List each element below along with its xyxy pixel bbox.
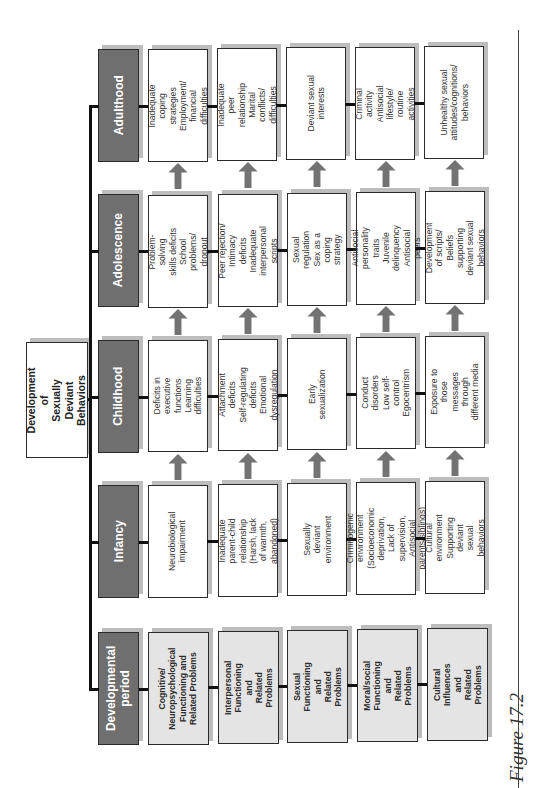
domain-sexual: Sexual Functioning and Related Problems: [287, 630, 348, 743]
root-node-box: Development of Sexually Deviant Behavior…: [26, 342, 88, 458]
cell-childhood-interpersonal: Attachment deficits Self-regulating defi…: [218, 339, 278, 451]
cell-text: Antisocial personality traits Juvenile d…: [350, 220, 422, 278]
arrow-up-icon: [444, 450, 466, 476]
domain-moral-social: Moral/social Functioning and Related Pro…: [357, 629, 418, 742]
arrow-up-icon: [167, 163, 189, 189]
cell-adulthood-cultural: Unhealthy sexual attitudes/cognitions/ b…: [424, 46, 484, 159]
cell-adolescence-sexual: Sexual regulation Sex as a coping strate…: [287, 193, 347, 306]
stage-header-adolescence: Adolescence: [98, 194, 139, 307]
stage-header-label: Adulthood: [111, 76, 125, 136]
arrow-up-icon: [375, 451, 397, 477]
stage-header-label: Developmental period: [104, 646, 133, 731]
root-node-label: Development of Sexually Deviant Behavior…: [26, 367, 89, 433]
cell-text: Sexually deviant environment: [302, 511, 333, 569]
arrow-up-icon: [306, 307, 328, 333]
arrow-up-icon: [444, 160, 466, 186]
domain-cognitive: Cognitive/ Neuropsychological Functionin…: [148, 632, 209, 745]
stage-header-infancy: Infancy: [98, 485, 139, 598]
domain-interpersonal: Interpersonal Functioning and Related Pr…: [218, 631, 279, 744]
cell-infancy-cognitive: Neurobiological impairment: [148, 485, 208, 598]
cell-infancy-sexual: Sexually deviant environment: [287, 483, 347, 596]
arrow-up-icon: [306, 161, 328, 187]
spine-tick: [89, 105, 99, 108]
stage-header-label: Childhood: [111, 367, 125, 426]
cell-text: Neurobiological impairment: [168, 512, 189, 571]
cell-childhood-moral-social: Conduct disorders Low self-control Egoce…: [356, 337, 416, 449]
cell-adulthood-cognitive: Inadequate coping strategies Employment/…: [148, 49, 208, 162]
arrow-up-icon: [375, 161, 397, 187]
spine-tick: [89, 688, 99, 691]
cell-text: Exposure to those messages through diffe…: [429, 363, 481, 421]
cell-infancy-cultural: Cultural environment Supporting deviant …: [425, 481, 485, 594]
cell-text: Cultural environment Supporting deviant …: [424, 509, 486, 567]
cell-infancy-moral-social: Criminogenic environment (Socioeconomic …: [356, 482, 416, 595]
stage-header-childhood: Childhood: [98, 340, 139, 453]
cell-text: Inadequate peer relationship Marital con…: [216, 76, 278, 134]
cell-text: Early sexualization: [307, 365, 328, 423]
stage-header-adulthood: Adulthood: [98, 49, 139, 162]
stage-header-developmental-period: Developmental period: [98, 632, 139, 745]
cell-text: Attachment deficits Self-regulating defi…: [217, 366, 279, 424]
cell-adolescence-interpersonal: Peer rejection/ Intimacy deficits Inadeq…: [218, 194, 278, 307]
domain-text: Moral/social Functioning and Related Pro…: [362, 656, 414, 715]
arrow-up-icon: [237, 308, 259, 334]
arrow-up-icon: [237, 162, 259, 188]
arrow-up-icon: [375, 306, 397, 332]
arrow-up-icon: [237, 453, 259, 479]
arrow-up-icon: [167, 309, 189, 335]
domain-text: Interpersonal Functioning and Related Pr…: [223, 658, 275, 717]
spine-tick: [89, 250, 99, 253]
domain-text: Sexual Functioning and Related Problems: [292, 657, 344, 716]
domain-text: Cognitive/ Neuropsychological Functionin…: [158, 647, 199, 729]
cell-text: Sexual regulation Sex as a coping strate…: [291, 221, 343, 279]
cell-text: Deviant sexual interests: [306, 75, 327, 131]
cell-adolescence-cultural: Development of scripts/ Beliefs supporti…: [425, 191, 485, 304]
cell-text: Inadequate parent-child relationship (Ha…: [217, 512, 279, 570]
domain-text: Cultural Influences and Related Problems: [432, 655, 484, 714]
cell-text: Unhealthy sexual attitudes/cognitions/ b…: [439, 65, 470, 141]
arrow-up-icon: [444, 305, 466, 331]
cell-adolescence-moral-social: Antisocial personality traits Juvenile d…: [356, 192, 416, 305]
cell-text: Criminal activity Antisocial lifestyle/ …: [354, 75, 416, 133]
page-edge-rule: [518, 30, 519, 788]
stage-header-label: Infancy: [111, 520, 125, 562]
cell-infancy-interpersonal: Inadequate parent-child relationship (Ha…: [218, 484, 278, 597]
cell-childhood-cultural: Exposure to those messages through diffe…: [425, 336, 485, 448]
cell-text: Peer rejection/ Intimacy deficits Inadeq…: [217, 222, 279, 280]
cell-adolescence-cognitive: Problem-solving skills deficits School p…: [148, 195, 208, 308]
cell-text: Conduct disorders Low self-control Egoce…: [360, 364, 412, 422]
cell-adulthood-moral-social: Criminal activity Antisocial lifestyle/ …: [355, 47, 415, 160]
cell-text: Problem-solving skills deficits School p…: [147, 223, 209, 281]
cell-childhood-sexual: Early sexualization: [287, 338, 347, 450]
spine-tick: [89, 541, 99, 544]
cell-text: Inadequate coping strategies Employment/…: [147, 77, 209, 135]
arrow-up-icon: [306, 452, 328, 478]
cell-text: Deficits in executive functions Learning…: [152, 367, 204, 425]
arrow-up-icon: [167, 454, 189, 480]
spine-tick: [89, 396, 99, 399]
figure-caption: Figure 17.2: [506, 693, 528, 782]
stage-header-label: Adolescence: [111, 213, 125, 287]
domain-cultural: Cultural Influences and Related Problems: [427, 628, 488, 741]
cell-text: Development of scripts/ Beliefs supporti…: [424, 219, 486, 277]
cell-adulthood-sexual: Deviant sexual interests: [286, 47, 346, 160]
cell-adulthood-interpersonal: Inadequate peer relationship Marital con…: [217, 48, 277, 161]
cell-childhood-cognitive: Deficits in executive functions Learning…: [148, 340, 208, 452]
